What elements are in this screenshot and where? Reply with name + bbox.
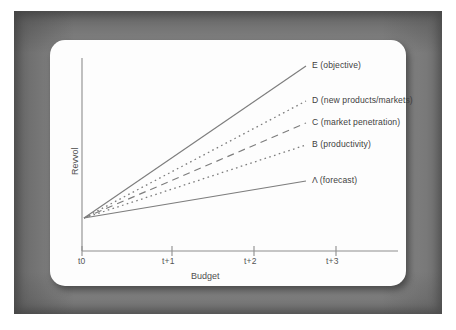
series-label-c-market-penetration: C (market penetration) xyxy=(312,117,400,127)
x-tick-label-t0: t0 xyxy=(78,256,86,266)
figure-outer-frame: t0 t+1 t+2 t+3 Budget Revvol E (objectiv… xyxy=(14,11,442,314)
series-line-c-market-penetration xyxy=(84,123,306,218)
line-chart-plot xyxy=(50,40,406,286)
y-axis-title: Revvol xyxy=(70,147,80,175)
chart-card: t0 t+1 t+2 t+3 Budget Revvol E (objectiv… xyxy=(50,40,406,286)
series-label-e-objective: E (objective) xyxy=(312,60,361,70)
series-label-d-new-products-markets: D (new products/markets) xyxy=(312,95,413,105)
x-axis-title: Budget xyxy=(191,271,220,281)
series-line-d-new-products-markets xyxy=(84,101,306,218)
series-label-a-forecast: Λ (forecast) xyxy=(312,175,357,185)
x-tick-label-t2: t+2 xyxy=(244,256,257,266)
series-line-a-forecast xyxy=(84,181,306,218)
series-line-b-productivity xyxy=(84,145,306,218)
x-tick-label-t1: t+1 xyxy=(162,256,175,266)
series-label-b-productivity: B (productivity) xyxy=(312,139,371,149)
series-line-e-objective xyxy=(84,66,306,218)
x-tick-label-t3: t+3 xyxy=(326,256,339,266)
